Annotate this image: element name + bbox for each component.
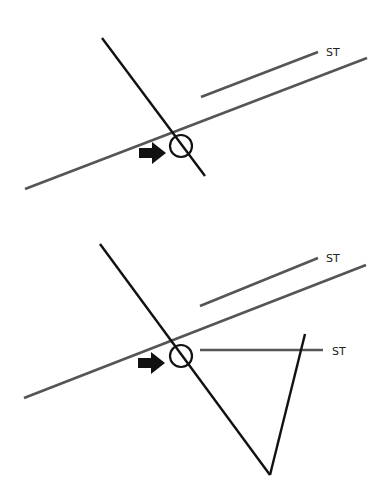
- st-label-upper: ST: [326, 252, 340, 265]
- gray-long-line: [24, 265, 366, 398]
- gray-short-line: [201, 52, 318, 97]
- right-line: [270, 334, 305, 475]
- gray-short-line: [200, 258, 318, 306]
- diagram-canvas: ST ST ST: [0, 0, 390, 503]
- intersection-circle: [170, 135, 192, 157]
- arrow-icon: [139, 142, 166, 164]
- diagram-top: ST: [25, 38, 367, 189]
- diagram-bottom: ST ST: [24, 244, 366, 475]
- st-label-lower: ST: [332, 345, 346, 358]
- gray-long-line: [25, 58, 367, 189]
- st-label: ST: [326, 46, 340, 59]
- arrow-icon: [138, 352, 165, 374]
